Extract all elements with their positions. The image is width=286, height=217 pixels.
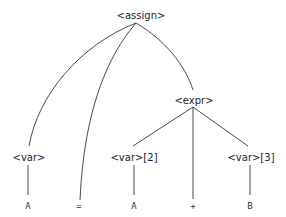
node-var-3: <var>[3] (227, 152, 274, 163)
leaf-a-2: A (131, 201, 137, 211)
node-var: <var> (13, 152, 46, 163)
parse-tree-diagram: <assign> <expr> <var> <var>[2] <var>[3] … (0, 0, 286, 217)
leaf-a-1: A (25, 201, 31, 211)
edge-assign-equals (80, 23, 136, 200)
leaf-equals: = (76, 201, 82, 211)
node-assign: <assign> (117, 10, 166, 21)
edge-assign-var (29, 23, 136, 146)
node-expr: <expr> (174, 95, 213, 106)
edge-expr-var3 (193, 107, 248, 146)
node-var-2: <var>[2] (110, 152, 157, 163)
leaf-plus: + (190, 201, 196, 211)
leaf-b: B (247, 201, 252, 211)
edge-expr-var2 (133, 107, 193, 146)
edge-assign-expr (136, 23, 193, 90)
